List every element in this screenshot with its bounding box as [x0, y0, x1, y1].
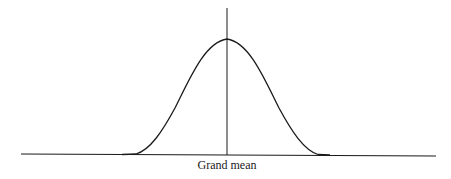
bell-curve-diagram	[0, 0, 451, 179]
baseline-axis	[21, 154, 436, 156]
grand-mean-label: Grand mean	[0, 158, 451, 173]
normal-curve	[122, 39, 330, 155]
